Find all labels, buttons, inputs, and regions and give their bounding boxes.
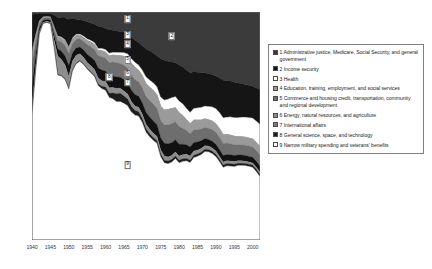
series-callout-9: 9 (124, 161, 131, 169)
chart-legend: 1 Administrative justice, Medicare, Soci… (268, 44, 424, 154)
legend-item-4: 4 Education, training, employment, and s… (273, 85, 420, 92)
x-tick-label: 1955 (82, 245, 93, 250)
legend-label: 6 Energy, natural resources, and agricul… (280, 112, 377, 119)
series-callout-2: 2 (168, 32, 175, 40)
series-callout-3: 3 (124, 31, 131, 39)
legend-label: 1 Administrative justice, Medicare, Soci… (280, 49, 420, 62)
legend-swatch-icon (273, 86, 278, 91)
legend-item-3: 3 Health (273, 76, 420, 83)
x-tick-label: 1965 (118, 245, 129, 250)
x-tick-label: 2000 (247, 245, 258, 250)
series-callout-5: 5 (124, 56, 131, 64)
legend-item-1: 1 Administrative justice, Medicare, Soci… (273, 49, 420, 62)
legend-swatch-icon (273, 142, 278, 147)
x-axis: 1940194519501955196019651970197519801985… (32, 240, 260, 256)
legend-label: 3 Health (280, 76, 299, 83)
x-tick-label: 1985 (192, 245, 203, 250)
x-tick-label: 1945 (45, 245, 56, 250)
legend-item-6: 6 Energy, natural resources, and agricul… (273, 112, 420, 119)
x-tick-label: 1990 (210, 245, 221, 250)
legend-item-5: 5 Commerce and housing credit, transport… (273, 95, 420, 108)
x-tick-label: 1980 (174, 245, 185, 250)
legend-swatch-icon (273, 76, 278, 81)
legend-label: 5 Commerce and housing credit, transport… (280, 95, 420, 108)
legend-item-8: 8 General science, space, and technology (273, 132, 420, 139)
series-callout-1: 1 (124, 15, 131, 23)
series-callout-4: 4 (124, 40, 131, 48)
x-tick-label: 1970 (137, 245, 148, 250)
legend-label: 2 Income security (280, 66, 319, 73)
legend-label: 8 General science, space, and technology (280, 132, 373, 139)
x-tick-label: 1950 (63, 245, 74, 250)
stacked-area-chart (32, 12, 260, 240)
series-callout-8: 8 (106, 73, 113, 81)
legend-swatch-icon (273, 50, 278, 55)
legend-item-2: 2 Income security (273, 66, 420, 73)
legend-item-9: 9 Narrow military spending and veterans'… (273, 142, 420, 149)
legend-swatch-icon (273, 96, 278, 101)
legend-label: 4 Education, training, employment, and s… (280, 85, 400, 92)
legend-item-7: 7 International affairs (273, 122, 420, 129)
plot-area: 123456789 (32, 12, 260, 240)
x-tick-label: 1960 (100, 245, 111, 250)
legend-label: 7 International affairs (280, 122, 326, 129)
legend-swatch-icon (273, 122, 278, 127)
legend-swatch-icon (273, 132, 278, 137)
series-callout-6: 6 (124, 70, 131, 78)
area-series-group (32, 12, 260, 240)
x-tick-label: 1940 (26, 245, 37, 250)
series-callout-7: 7 (124, 79, 131, 87)
x-tick-label: 1995 (229, 245, 240, 250)
x-tick-label: 1975 (155, 245, 166, 250)
chart-page: 0%10%20%30%40%50%60%70%80%90%100% 123456… (0, 0, 432, 269)
legend-swatch-icon (273, 113, 278, 118)
legend-label: 9 Narrow military spending and veterans'… (280, 142, 389, 149)
legend-swatch-icon (273, 66, 278, 71)
